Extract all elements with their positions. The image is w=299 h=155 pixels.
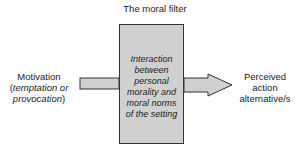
filter-box-text: Interaction between personal morality an…	[119, 54, 184, 120]
motivation-title: Motivation	[0, 71, 78, 82]
filter-line: Interaction	[119, 54, 184, 65]
motivation-detail-1: temptation or	[13, 82, 68, 93]
perceived-action-label: Perceived action alternative/s	[234, 71, 296, 104]
output-arrow	[184, 74, 232, 96]
filter-line: of the setting	[119, 109, 184, 120]
diagram-title: The moral filter	[110, 3, 200, 14]
motivation-detail-2: provocation	[13, 93, 62, 104]
output-line: Perceived	[234, 71, 296, 82]
filter-line: moral norms	[119, 98, 184, 109]
output-line: alternative/s	[234, 93, 296, 104]
output-line: action	[234, 82, 296, 93]
filter-line: personal	[119, 76, 184, 87]
filter-line: morality and	[119, 87, 184, 98]
motivation-label: Motivation (temptation or provocation)	[0, 71, 78, 104]
input-arrow	[80, 78, 119, 89]
filter-line: between	[119, 65, 184, 76]
paren-close: )	[62, 93, 65, 104]
